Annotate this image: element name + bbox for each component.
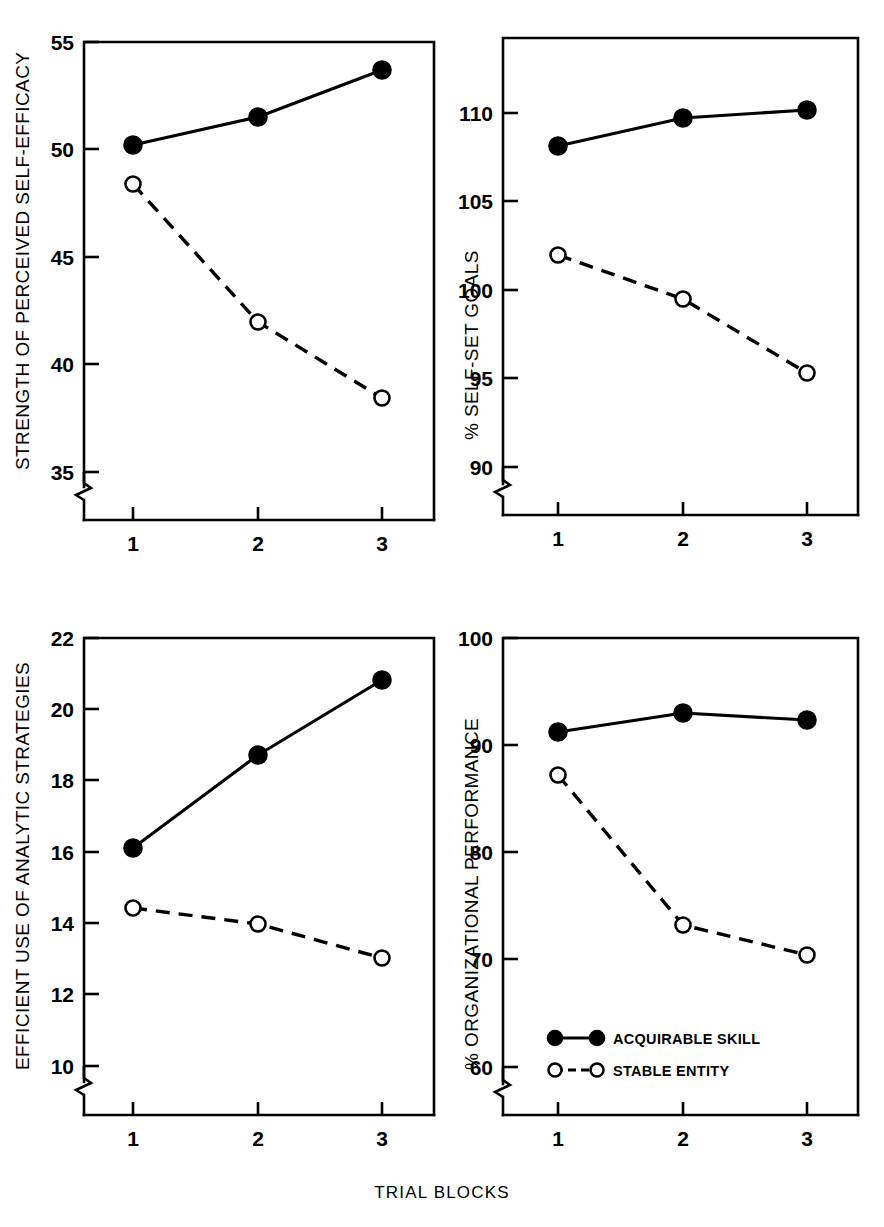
y-tick-label: 95 — [470, 367, 494, 390]
x-ticks-3 — [133, 1102, 382, 1115]
data-point — [249, 108, 267, 126]
x-tick-label: 3 — [376, 532, 388, 555]
y-axis-title-4: % ORGANIZATIONAL PERFORMANCE — [461, 718, 482, 1070]
data-point — [126, 177, 141, 192]
data-point — [375, 951, 390, 966]
y-tick-label: 14 — [51, 912, 75, 935]
y-tick-label: 40 — [51, 353, 74, 376]
data-point — [373, 61, 391, 79]
y-tick-label: 110 — [459, 102, 493, 125]
y-tick-label: 20 — [51, 698, 74, 721]
legend-item-stable-entity[interactable]: STABLE ENTITY — [549, 1063, 730, 1079]
x-tick-label: 1 — [127, 532, 139, 555]
x-ticks-4 — [558, 1102, 807, 1115]
y-tick-label: 22 — [51, 627, 74, 650]
y-tick-label: 90 — [470, 456, 493, 479]
panel-organizational-performance: % ORGANIZATIONAL PERFORMANCE 100 90 80 7… — [442, 570, 884, 1190]
series-acquirable-skill-3 — [124, 671, 391, 857]
y-tick-label: 105 — [458, 190, 493, 213]
series-acquirable-skill-1 — [124, 61, 391, 154]
series-stable-entity-2 — [551, 248, 815, 381]
legend-marker-filled-circle-icon — [548, 1031, 563, 1046]
series-stable-entity-1 — [126, 177, 390, 406]
legend-marker-open-circle-icon — [591, 1064, 604, 1077]
legend-label-stable-entity: STABLE ENTITY — [613, 1063, 729, 1079]
legend-marker-filled-circle-icon — [590, 1031, 605, 1046]
legend: ACQUIRABLE SKILL STABLE ENTITY — [548, 1031, 761, 1080]
data-point — [676, 918, 691, 933]
y-tick-label: 55 — [51, 31, 75, 54]
x-tick-label: 3 — [801, 527, 813, 550]
legend-item-acquirable-skill[interactable]: ACQUIRABLE SKILL — [548, 1031, 761, 1048]
data-point — [551, 768, 566, 783]
figure-root: STRENGTH OF PERCEIVED SELF-EFFICACY 55 5… — [0, 0, 884, 1227]
data-point — [126, 901, 141, 916]
y-tick-label: 80 — [470, 841, 493, 864]
data-point — [800, 366, 815, 381]
series-stable-entity-4 — [551, 768, 815, 963]
x-tick-label: 1 — [127, 1127, 139, 1150]
y-tick-label: 100 — [458, 627, 493, 650]
y-axis-title-3: EFFICIENT USE OF ANALYTIC STRATEGIES — [12, 662, 33, 1070]
data-point — [549, 137, 567, 155]
data-point — [249, 746, 267, 764]
x-ticks-1 — [133, 507, 382, 520]
y-tick-label: 12 — [51, 983, 74, 1006]
data-point — [674, 109, 692, 127]
y-ticks-1 — [84, 42, 99, 472]
data-point — [798, 101, 816, 119]
x-tick-label: 2 — [252, 1127, 264, 1150]
y-ticks-2 — [503, 113, 518, 467]
data-point — [251, 917, 266, 932]
y-tick-label: 50 — [51, 138, 74, 161]
series-acquirable-skill-2 — [549, 101, 816, 155]
x-tick-label: 2 — [252, 532, 264, 555]
y-ticks-3 — [84, 638, 99, 1066]
y-tick-label: 70 — [470, 948, 493, 971]
x-tick-label: 3 — [376, 1127, 388, 1150]
y-ticks-4 — [503, 638, 518, 1067]
y-tick-label: 90 — [470, 734, 493, 757]
panel-self-efficacy: STRENGTH OF PERCEIVED SELF-EFFICACY 55 5… — [0, 0, 442, 560]
data-point — [798, 711, 816, 729]
x-tick-label: 1 — [552, 527, 564, 550]
y-tick-label: 45 — [51, 246, 75, 269]
data-point — [676, 292, 691, 307]
legend-label-acquirable-skill: ACQUIRABLE SKILL — [613, 1031, 760, 1047]
y-axis-title-1: STRENGTH OF PERCEIVED SELF-EFFICACY — [12, 52, 33, 470]
x-tick-label: 2 — [677, 1127, 689, 1150]
data-point — [124, 839, 142, 857]
y-tick-label: 18 — [51, 769, 75, 792]
data-point — [674, 704, 692, 722]
x-ticks-2 — [558, 502, 807, 515]
data-point — [251, 315, 266, 330]
data-point — [800, 948, 815, 963]
y-tick-label: 10 — [51, 1055, 74, 1078]
x-tick-label: 1 — [552, 1127, 564, 1150]
legend-marker-open-circle-icon — [549, 1064, 562, 1077]
data-point — [551, 248, 566, 263]
y-tick-label: 60 — [470, 1056, 493, 1079]
panel-self-set-goals: % SELF-SET GOALS 110 105 100 95 90 1 — [442, 0, 884, 560]
y-tick-label: 35 — [51, 461, 75, 484]
series-acquirable-skill-4 — [549, 704, 816, 741]
y-tick-label: 16 — [51, 841, 74, 864]
x-tick-label: 2 — [677, 527, 689, 550]
data-point — [124, 136, 142, 154]
data-point — [375, 391, 390, 406]
panel-analytic-strategies: EFFICIENT USE OF ANALYTIC STRATEGIES 22 … — [0, 570, 442, 1190]
x-axis-title: TRIAL BLOCKS — [0, 1183, 884, 1203]
x-tick-label: 3 — [801, 1127, 813, 1150]
data-point — [373, 671, 391, 689]
y-tick-label: 100 — [458, 279, 493, 302]
plot-frame-3 — [84, 638, 434, 1115]
series-stable-entity-3 — [126, 901, 390, 966]
data-point — [549, 723, 567, 741]
